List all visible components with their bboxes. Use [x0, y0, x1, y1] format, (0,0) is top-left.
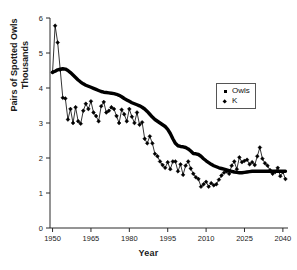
- square-marker-icon: [220, 86, 230, 96]
- data-point-k: [74, 105, 78, 109]
- data-point-k: [133, 121, 137, 125]
- data-point-k: [255, 154, 259, 158]
- data-point-k: [232, 160, 236, 164]
- data-point-k: [53, 24, 57, 28]
- data-point-k: [143, 137, 147, 141]
- data-point-k: [66, 118, 70, 122]
- data-point-k: [127, 107, 131, 111]
- x-tick-label: 2010: [198, 234, 215, 243]
- y-tick-label: 0: [39, 224, 43, 233]
- x-tick-label: 1965: [83, 234, 100, 243]
- data-point-k: [71, 121, 75, 125]
- legend-item-owls: Owls: [220, 86, 250, 96]
- data-point-k: [176, 169, 180, 173]
- data-point-k: [89, 99, 93, 103]
- data-point-k: [278, 174, 282, 178]
- data-point-k: [217, 178, 221, 182]
- data-point-k: [276, 166, 280, 170]
- chart-plot-area: 0123456 1950196519801995201020252040: [0, 0, 297, 270]
- data-point-k: [122, 112, 126, 116]
- chart-figure: 0123456 1950196519801995201020252040 Pai…: [0, 0, 297, 270]
- data-point-k: [135, 111, 139, 115]
- legend-label-owls: Owls: [232, 86, 250, 96]
- data-point-k: [237, 155, 241, 159]
- data-point-k: [86, 107, 90, 111]
- data-point-k: [168, 167, 172, 171]
- x-axis-label: Year: [0, 248, 297, 258]
- axes: [50, 18, 288, 228]
- data-point-k: [130, 115, 134, 119]
- data-point-k: [284, 177, 288, 181]
- y-axis-label-line1: Pairs of Spotted Owls: [9, 0, 20, 165]
- diamond-marker-icon: [220, 96, 230, 106]
- x-tick-label: 1995: [159, 234, 176, 243]
- legend-item-k: K: [220, 96, 250, 106]
- y-axis-label: Pairs of Spotted Owls Thousands: [9, 0, 43, 165]
- data-point-k: [150, 141, 154, 145]
- data-point-k: [145, 141, 149, 145]
- x-axis-ticks: 1950196519801995201020252040: [44, 228, 291, 243]
- legend-label-k: K: [232, 96, 237, 106]
- data-point-k: [173, 160, 177, 164]
- data-point-k: [81, 109, 85, 113]
- data-point-k: [230, 164, 234, 168]
- data-point-k: [69, 107, 73, 111]
- data-point-k: [186, 160, 190, 164]
- x-tick-label: 2040: [275, 234, 292, 243]
- data-point-k: [148, 134, 152, 138]
- data-point-k: [181, 173, 185, 177]
- data-point-k: [120, 108, 124, 112]
- x-tick-label: 1950: [44, 234, 61, 243]
- y-tick-label: 1: [39, 189, 43, 198]
- data-point-k: [56, 41, 60, 45]
- data-point-k: [189, 167, 193, 171]
- data-point-k: [166, 160, 170, 164]
- data-point-k: [115, 114, 119, 118]
- x-tick-label: 1980: [121, 234, 138, 243]
- data-point-k: [179, 162, 183, 166]
- data-point-k: [258, 146, 262, 150]
- data-point-k: [117, 121, 121, 125]
- chart-legend: Owls K: [216, 83, 256, 109]
- y-axis-label-line2: Thousands: [20, 0, 31, 165]
- data-point-k: [261, 157, 265, 161]
- data-point-k: [102, 100, 106, 104]
- data-point-k: [125, 119, 129, 123]
- x-tick-label: 2025: [236, 234, 253, 243]
- data-point-k: [99, 104, 103, 108]
- data-point-k: [184, 164, 188, 168]
- data-point-k: [97, 119, 101, 123]
- data-point-k: [84, 102, 88, 106]
